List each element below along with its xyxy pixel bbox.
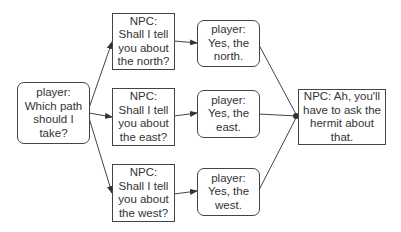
node-player-east: player: Yes, the east.	[197, 90, 260, 138]
node-player-start: player: Which path should I take?	[17, 82, 90, 144]
node-text: player: Which path should I take?	[25, 86, 83, 140]
edge-start-npc-west	[89, 118, 112, 193]
node-npc-final: NPC: Ah, you'll have to ask the hermit a…	[298, 89, 386, 145]
node-npc-east: NPC: Shall I tell you about the east?	[112, 88, 175, 146]
node-npc-north: NPC: Shall I tell you about the north?	[112, 13, 175, 70]
edge-start-npc-east	[89, 113, 112, 117]
edge-player-north-final	[259, 45, 297, 116]
edge-player-west-final	[259, 116, 297, 190]
node-text: NPC: Shall I tell you about the north?	[118, 15, 170, 69]
node-text: NPC: Shall I tell you about the west?	[118, 166, 169, 220]
node-text: NPC: Shall I tell you about the east?	[118, 90, 169, 144]
edge-npc-west-player-west	[174, 191, 197, 194]
edge-start-npc-north	[89, 42, 112, 108]
edge-npc-east-player-east	[174, 113, 197, 116]
node-text: player: Yes, the east.	[208, 94, 249, 135]
node-player-north: player: Yes, the north.	[197, 20, 260, 67]
node-text: player: Yes, the west.	[208, 172, 249, 213]
edge-player-east-final	[259, 114, 297, 116]
node-player-west: player: Yes, the west.	[197, 168, 260, 216]
edge-npc-north-player-north	[174, 41, 197, 43]
node-text: NPC: Ah, you'll have to ask the hermit a…	[303, 90, 381, 144]
node-text: player: Yes, the north.	[208, 23, 249, 64]
node-npc-west: NPC: Shall I tell you about the west?	[112, 164, 175, 222]
